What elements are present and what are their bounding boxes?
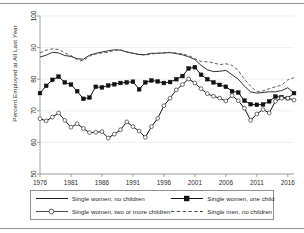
legend-item-single-women-two-or-more-children: Single women, two or more children [35,207,170,216]
series-group [38,49,296,140]
solid-square-marker-key-icon [170,194,204,203]
dashed-line-key-icon [170,207,204,216]
svg-text:50: 50 [30,170,37,178]
svg-text:1981: 1981 [64,179,79,186]
svg-text:100: 100 [30,10,37,21]
svg-text:1976: 1976 [33,179,48,186]
series-line-3 [40,49,294,92]
legend-label: Single men, no children [207,208,272,215]
svg-text:2016: 2016 [281,179,296,186]
legend-item-single-men-no-children: Single men, no children [170,207,274,216]
series-line-2 [40,79,294,138]
svg-text:2006: 2006 [219,179,234,186]
series-line-1 [40,67,294,105]
series-line-0 [40,50,294,93]
legend-label: Single women, two or more children [72,208,170,215]
legend-item-single-women-no-children: Single women, no children [35,194,170,203]
svg-text:80: 80 [30,75,37,83]
bottom-divider [0,228,304,229]
legend-label: Single women, one child [207,195,274,202]
svg-text:60: 60 [30,138,37,146]
legend-item-single-women-one-child: Single women, one child [170,194,274,203]
chart-legend: Single women, no children Single women, … [30,190,274,220]
chart-figure: Percent Employed at All Last Year 506070… [0,0,304,233]
svg-text:90: 90 [30,44,37,52]
svg-text:70: 70 [30,107,37,115]
svg-text:1991: 1991 [126,179,141,186]
svg-text:1986: 1986 [95,179,110,186]
chart-canvas: 5060708090100 19761981198619911996200120… [0,8,304,186]
legend-label: Single women, no children [72,195,145,202]
svg-text:1996: 1996 [157,179,172,186]
gridlines-group [40,16,294,174]
x-axis-ticks-group: 197619811986199119962001200620112016 [33,174,295,186]
plot-area: Percent Employed at All Last Year 506070… [0,8,304,186]
svg-text:2001: 2001 [188,179,203,186]
top-divider [0,3,304,4]
solid-line-key-icon [35,194,69,203]
svg-text:2011: 2011 [250,179,264,186]
solid-circle-marker-key-icon [35,207,69,216]
